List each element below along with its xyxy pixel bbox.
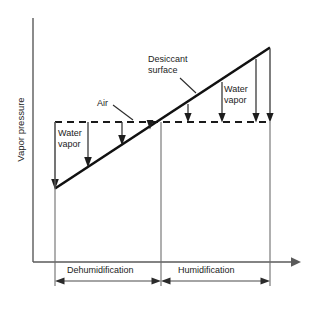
vapor-arrow-7 — [252, 59, 259, 123]
vapor-arrow-5 — [184, 104, 191, 123]
dehumidification-dimension — [55, 278, 161, 285]
air-label: Air — [97, 98, 108, 109]
vapor-arrow-8 — [266, 49, 273, 123]
air-leader-line — [113, 105, 133, 120]
desiccant-leader-line — [180, 78, 196, 93]
y-axis-label: Vapor pressure — [15, 82, 26, 178]
x-axis-arrowhead — [291, 257, 301, 267]
diagram-canvas — [0, 0, 310, 310]
vapor-arrow-2 — [84, 122, 92, 168]
dehumidification-label: Dehumidification — [67, 265, 134, 276]
vapor-pressure-diagram: Vapor pressure Water vapor Water vapor A… — [0, 0, 310, 310]
desiccant-surface-label: Desiccant surface — [148, 54, 188, 75]
water-vapor-label-right: Water vapor — [224, 84, 248, 105]
humidification-label: Humidification — [178, 265, 235, 276]
humidification-dimension — [161, 278, 270, 285]
water-vapor-label-left: Water vapor — [58, 128, 82, 149]
